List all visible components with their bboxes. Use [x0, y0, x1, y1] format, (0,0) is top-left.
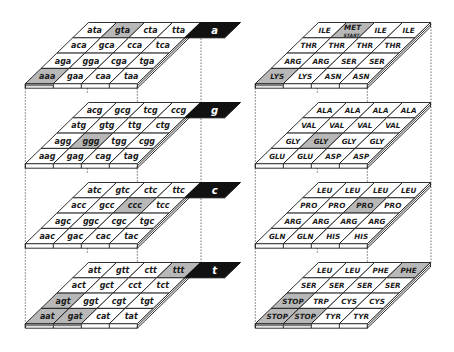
cell-label: TYR [325, 312, 341, 321]
cell-label: atg [71, 121, 86, 130]
cell-label: aga [55, 57, 72, 66]
cell-label: cag [95, 152, 111, 161]
cell-label: LEU [345, 186, 360, 195]
cell-label: ctc [144, 186, 158, 195]
cell-label: LEU [401, 186, 416, 195]
start-label: START [344, 33, 361, 38]
cell-label: ggc [83, 217, 99, 226]
cell-label: LEU [317, 186, 332, 195]
cell-label: THR [357, 41, 373, 50]
cell-label: ILE [403, 26, 415, 35]
cell-label: tcg [143, 106, 158, 115]
cell-label: tgg [111, 137, 127, 146]
cell-label: cga [111, 57, 127, 66]
cell-label: cac [96, 232, 111, 241]
cell-label: THR [385, 41, 401, 50]
cell-label: TYR [353, 312, 369, 321]
cell-label: SER [301, 281, 317, 290]
cell-label: aca [71, 41, 87, 50]
cell-label: GLY [286, 137, 301, 146]
cell-label: ARG [284, 217, 302, 226]
cell-label: ARG [368, 217, 386, 226]
cell-label: ggt [83, 297, 99, 306]
cell-label: VAL [301, 121, 317, 130]
cell-label: tat [125, 312, 139, 321]
cell-label: tgt [140, 297, 155, 306]
cell-label: PHE [372, 266, 388, 275]
tab-label: g [211, 105, 218, 116]
cell-label: aat [40, 312, 56, 321]
cell-label: tga [140, 57, 155, 66]
cell-label: PRO [356, 201, 373, 210]
cell-label: ARG [312, 57, 330, 66]
cell-label: ttg [128, 121, 142, 130]
cell-label: ALA [400, 106, 417, 115]
cell-label: gga [83, 57, 100, 66]
cell-label: ctt [144, 266, 158, 275]
layer-t: attgttctttttactgctccttctagtggtcgttgtaatg… [25, 263, 240, 329]
cell-label: gcg [114, 106, 130, 115]
cell-label: ccc [128, 201, 142, 210]
cell-label: ggg [82, 137, 99, 146]
cell-label: act [72, 281, 87, 290]
cell-label: ARG [284, 57, 302, 66]
cell-label: ttc [172, 186, 185, 195]
cell-label: LYS [270, 72, 284, 81]
cell-label: gag [67, 152, 84, 161]
cell-label: cgt [112, 297, 127, 306]
cell-label: ILE [375, 26, 387, 35]
cell-label: STOP [282, 297, 304, 306]
cell-label: aaa [39, 72, 55, 81]
cell-label: ASN [352, 72, 370, 81]
cell-label: SER [369, 57, 385, 66]
cell-label: gct [100, 281, 115, 290]
cell-label: cca [127, 41, 142, 50]
cell-label: tct [157, 281, 171, 290]
cell-label: LEU [345, 266, 360, 275]
cell-label: caa [95, 72, 111, 81]
cell-label: GLY [342, 137, 357, 146]
cell-label: gca [99, 41, 115, 50]
cell-label: gac [67, 232, 83, 241]
cell-label: tta [172, 26, 185, 35]
cell-label: cta [144, 26, 158, 35]
cell-label: PRO [384, 201, 401, 210]
cell-label: TRP [313, 297, 329, 306]
cell-label: GLY [370, 137, 385, 146]
cell-label: cct [128, 281, 142, 290]
codon-cube: atagtactattaacagcaccatcaagaggacgatgaaaag… [25, 23, 240, 329]
cell-label: CYS [341, 297, 357, 306]
cell-label: agc [55, 217, 71, 226]
cell-label: ALA [316, 106, 333, 115]
cell-label: aag [39, 152, 56, 161]
cell-label: CYS [369, 297, 385, 306]
cell-label: VAL [357, 121, 373, 130]
cell-label: ccg [171, 106, 186, 115]
cell-label: LYS [298, 72, 312, 81]
cell-label: ALA [344, 106, 361, 115]
cell-label: acg [87, 106, 103, 115]
cell-label: ALA [372, 106, 389, 115]
cell-label: att [88, 266, 102, 275]
cell-label: GLU [297, 152, 313, 161]
cell-label: gcc [99, 201, 114, 210]
cell-label: tac [124, 232, 138, 241]
cell-label: PRO [328, 201, 345, 210]
cell-label: SER [385, 281, 401, 290]
cell-label: cgg [139, 137, 155, 146]
cell-label: ASN [324, 72, 342, 81]
cell-label: taa [124, 72, 139, 81]
cell-label: gta [115, 26, 130, 35]
cell-label: SER [357, 281, 373, 290]
cell-label: acc [71, 201, 86, 210]
cell-label: gtc [115, 186, 130, 195]
tab-label: a [211, 25, 218, 36]
cell-label: aac [39, 232, 55, 241]
cell-label: ata [87, 26, 102, 35]
cell-label: SER [329, 281, 345, 290]
cell-label: gat [68, 312, 84, 321]
cell-label: THR [329, 41, 345, 50]
cell-label: VAL [385, 121, 401, 130]
cell-label: GLN [269, 232, 286, 241]
cell-label: atc [88, 186, 102, 195]
